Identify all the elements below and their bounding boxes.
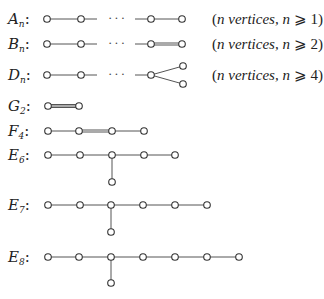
vertex-node-icon	[180, 63, 187, 70]
dynkin-diagrams-svg: An:···(n vertices, n ⩾ 1)Bn:···(n vertic…	[0, 0, 324, 299]
vertex-node-icon	[44, 16, 51, 23]
vertex-node-icon	[180, 81, 187, 88]
diagram-e-6: E6:	[7, 146, 178, 185]
vertex-node-icon	[141, 152, 148, 159]
vertex-node-icon	[108, 229, 115, 236]
vertex-node-icon	[140, 254, 147, 261]
ellipsis: ···	[108, 10, 127, 25]
vertex-node-icon	[45, 128, 52, 135]
vertex-node-icon	[108, 254, 115, 261]
diagram-label: Dn:	[7, 66, 31, 85]
vertex-node-icon	[148, 41, 155, 48]
diagram-label: E6:	[7, 146, 30, 165]
vertex-node-icon	[76, 254, 83, 261]
vertex-count-note: (n vertices, n ⩾ 4)	[212, 67, 323, 84]
single-bond-edge	[151, 75, 183, 84]
single-bond-edge	[151, 66, 183, 75]
vertex-node-icon	[172, 202, 179, 209]
vertex-node-icon	[44, 41, 51, 48]
diagram-label: An:	[6, 10, 30, 29]
ellipsis: ···	[108, 66, 127, 81]
vertex-node-icon	[172, 254, 179, 261]
diagram-label: E8:	[7, 248, 30, 267]
diagram-e-8: E8:	[7, 248, 242, 286]
vertex-count-note: (n vertices, n ⩾ 2)	[212, 36, 323, 53]
diagram-f-4: F4:	[7, 122, 147, 141]
vertex-node-icon	[45, 152, 52, 159]
vertex-node-icon	[179, 16, 186, 23]
vertex-node-icon	[78, 41, 85, 48]
vertex-node-icon	[45, 254, 52, 261]
diagram-g-2: G2:	[8, 97, 82, 116]
vertex-node-icon	[172, 152, 179, 159]
diagram-b-n: Bn:···(n vertices, n ⩾ 2)	[7, 35, 323, 54]
ellipsis: ···	[108, 35, 127, 50]
vertex-node-icon	[179, 41, 186, 48]
vertex-node-icon	[109, 128, 116, 135]
vertex-node-icon	[204, 254, 211, 261]
vertex-node-icon	[77, 202, 84, 209]
vertex-node-icon	[76, 103, 83, 110]
vertex-node-icon	[44, 72, 51, 79]
vertex-node-icon	[108, 202, 115, 209]
diagram-label: E7:	[7, 196, 30, 215]
vertex-node-icon	[77, 152, 84, 159]
vertex-node-icon	[204, 202, 211, 209]
diagram-label: F4:	[7, 122, 29, 141]
diagram-e-7: E7:	[7, 196, 210, 235]
diagram-d-n: Dn:···(n vertices, n ⩾ 4)	[7, 63, 323, 88]
diagram-label: Bn:	[7, 35, 30, 54]
vertex-node-icon	[148, 16, 155, 23]
vertex-node-icon	[109, 179, 116, 186]
vertex-node-icon	[108, 280, 115, 287]
vertex-node-icon	[140, 202, 147, 209]
vertex-node-icon	[45, 103, 52, 110]
vertex-count-note: (n vertices, n ⩾ 1)	[212, 11, 323, 28]
diagram-a-n: An:···(n vertices, n ⩾ 1)	[6, 10, 323, 29]
vertex-node-icon	[45, 202, 52, 209]
vertex-node-icon	[148, 72, 155, 79]
dynkin-diagrams-figure: An:···(n vertices, n ⩾ 1)Bn:···(n vertic…	[0, 0, 324, 299]
vertex-node-icon	[109, 152, 116, 159]
vertex-node-icon	[78, 16, 85, 23]
vertex-node-icon	[76, 128, 83, 135]
vertex-node-icon	[236, 254, 243, 261]
diagram-label: G2:	[8, 97, 31, 116]
vertex-node-icon	[141, 128, 148, 135]
vertex-node-icon	[78, 72, 85, 79]
